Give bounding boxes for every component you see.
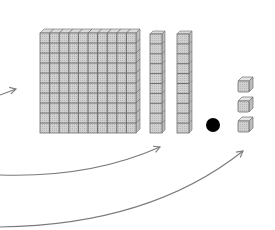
- cube-front-face: [238, 81, 249, 92]
- arrow-line: [0, 147, 160, 175]
- base-ten-diagram: [0, 0, 275, 230]
- arrow-line: [0, 151, 243, 227]
- unit-cube: [238, 77, 253, 92]
- unit-cubes: [238, 77, 253, 132]
- hundred-flat: [40, 29, 140, 133]
- arrow-to-flat: [0, 87, 16, 95]
- unit-cube: [238, 97, 253, 112]
- ten-rods: [150, 31, 192, 133]
- ten-rod: [150, 31, 165, 133]
- cube-front-face: [238, 121, 249, 132]
- ten-rod: [177, 31, 192, 133]
- arrow-to-rods: [0, 146, 160, 175]
- cube-front-face: [238, 101, 249, 112]
- arrow-to-units: [0, 151, 243, 227]
- unit-cube: [238, 117, 253, 132]
- decimal-point-dot: [206, 118, 220, 132]
